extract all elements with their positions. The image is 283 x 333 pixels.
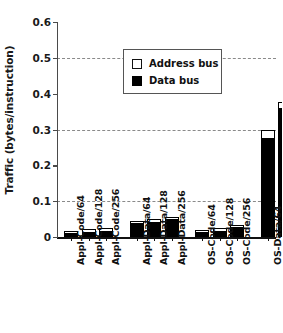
y-axis-title-text: Traffic (bytes/instruction) [3, 46, 15, 195]
address-bus-swatch-icon [132, 59, 142, 69]
y-tick-mark [53, 165, 58, 166]
x-tick-mark [137, 237, 138, 241]
y-tick-label: 0.6 [32, 16, 51, 28]
x-tick-label: Appl-Data/128 [158, 190, 169, 265]
y-tick-label: 0.3 [32, 124, 51, 136]
x-tick-label: Appl-Code/128 [93, 189, 104, 265]
x-tick-mark [172, 237, 173, 241]
gridline [57, 130, 276, 131]
x-tick-mark [220, 237, 221, 241]
traffic-bar-chart: Traffic (bytes/instruction) 00.10.20.30.… [0, 0, 282, 333]
x-tick-mark [237, 237, 238, 241]
y-tick-mark [53, 237, 58, 238]
legend: Address bus Data bus [123, 49, 222, 94]
x-tick-label: OS-Code/64 [206, 204, 217, 265]
y-tick-label: 0.1 [32, 195, 51, 207]
x-tick-label: OS-Code/256 [241, 198, 252, 265]
x-tick-mark [71, 237, 72, 241]
x-tick-label: OS-Code/128 [224, 198, 235, 265]
y-tick-mark [53, 22, 58, 23]
x-tick-mark [89, 237, 90, 241]
y-tick-label: 0.5 [32, 52, 51, 64]
y-tick-label: 0.2 [32, 159, 51, 171]
plot-area: 00.10.20.30.40.50.6 Appl-Code/64Appl-Cod… [57, 22, 276, 237]
x-tick-mark [154, 237, 155, 241]
y-tick-mark [53, 201, 58, 202]
y-tick-mark [53, 94, 58, 95]
address-bus-segment [261, 130, 275, 139]
legend-entry-data-bus: Data bus [132, 72, 221, 89]
y-tick-label: 0.4 [32, 88, 51, 100]
x-tick-mark [106, 237, 107, 241]
x-tick-label: OS-Data/64 [272, 206, 283, 265]
data-bus-swatch-icon [132, 76, 142, 86]
y-tick-mark [53, 58, 58, 59]
x-tick-label: Appl-Data/64 [141, 197, 152, 265]
y-axis-title: Traffic (bytes/instruction) [0, 0, 18, 240]
y-tick-label: 0 [44, 231, 51, 243]
x-tick-mark [202, 237, 203, 241]
x-tick-label: Appl-Data/256 [176, 190, 187, 265]
x-tick-label: Appl-Code/64 [75, 195, 86, 265]
x-tick-label: Appl-Code/256 [110, 189, 121, 265]
x-tick-mark [268, 237, 269, 241]
legend-label-data-bus: Data bus [149, 75, 199, 86]
legend-label-address-bus: Address bus [149, 58, 218, 69]
legend-entry-address-bus: Address bus [132, 55, 221, 72]
y-tick-mark [53, 130, 58, 131]
